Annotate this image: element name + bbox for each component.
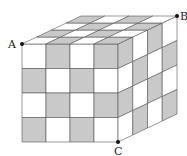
front-face-cell	[46, 44, 70, 69]
point-a	[20, 42, 24, 46]
label-a: A	[7, 38, 17, 51]
front-face-cell	[46, 93, 70, 118]
front-face-cell	[70, 44, 94, 69]
cube-faces	[22, 16, 177, 142]
cube-diagram: A B C	[0, 0, 187, 156]
front-face-cell	[22, 93, 46, 118]
front-face-cell	[70, 69, 94, 94]
label-b: B	[180, 10, 187, 23]
front-face-cell	[94, 93, 118, 118]
point-c	[116, 140, 120, 144]
point-b	[175, 14, 179, 18]
front-face-cell	[22, 44, 46, 69]
front-face-cell	[46, 69, 70, 94]
label-c: C	[114, 145, 122, 156]
front-face-cell	[70, 93, 94, 118]
front-face-cell	[22, 118, 46, 143]
front-face-cell	[46, 118, 70, 143]
front-face-cell	[94, 118, 118, 143]
front-face-cell	[94, 69, 118, 94]
front-face-cell	[70, 118, 94, 143]
front-face-cell	[94, 44, 118, 69]
front-face-cell	[22, 69, 46, 94]
